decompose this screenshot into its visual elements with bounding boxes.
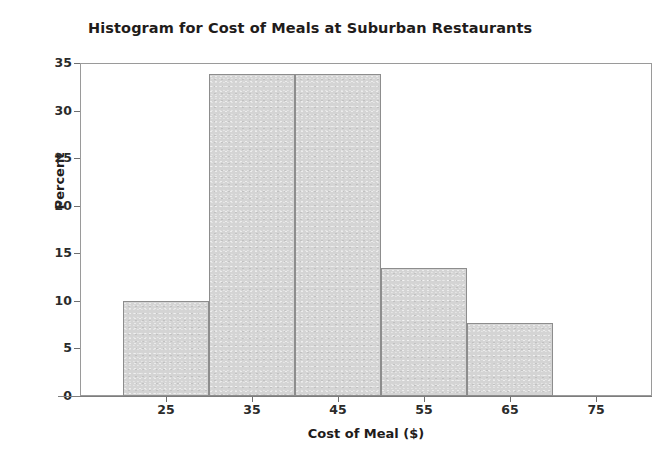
- y-tick-label: 15: [46, 247, 72, 260]
- x-tick-label: 35: [232, 404, 272, 417]
- x-axis-line: [58, 396, 652, 397]
- y-tick-label: 30: [46, 105, 72, 118]
- chart-title: Histogram for Cost of Meals at Suburban …: [88, 20, 608, 36]
- y-tick-label: 35: [46, 57, 72, 70]
- x-tick-label: 65: [490, 404, 530, 417]
- x-tick-label: 55: [404, 404, 444, 417]
- y-tick-label: 25: [46, 152, 72, 165]
- y-axis-title: Percent: [52, 126, 74, 236]
- histogram-figure: Histogram for Cost of Meals at Suburban …: [0, 0, 663, 452]
- histogram-bar: [209, 74, 295, 396]
- x-tick-label: 45: [318, 404, 358, 417]
- histogram-bar: [123, 301, 209, 396]
- y-tick-label: 10: [46, 295, 72, 308]
- plot-area: [80, 63, 652, 396]
- y-tick-label: 20: [46, 200, 72, 213]
- histogram-bar: [381, 268, 467, 396]
- x-axis-title: Cost of Meal ($): [80, 426, 652, 441]
- y-tick-label: 5: [46, 342, 72, 355]
- x-tick-label: 75: [576, 404, 616, 417]
- x-tick-label: 25: [146, 404, 186, 417]
- histogram-bar: [467, 323, 553, 396]
- histogram-bar: [295, 74, 381, 396]
